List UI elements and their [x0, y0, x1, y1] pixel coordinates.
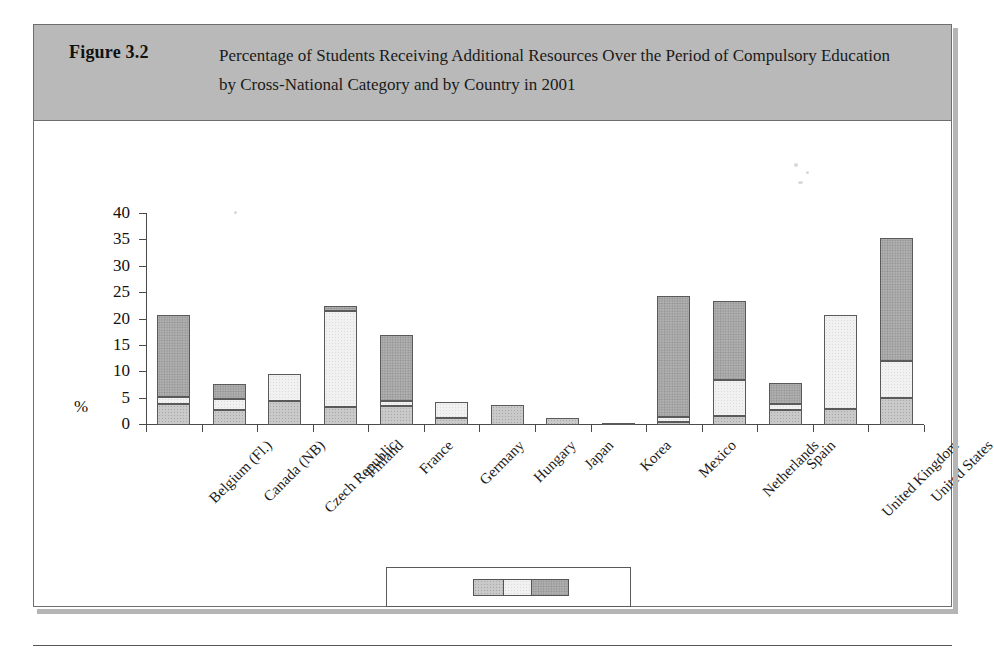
bar-segment-c: [657, 296, 690, 417]
y-tick-label: 35: [86, 230, 130, 247]
y-tick-label: 30: [86, 257, 130, 274]
y-tick: [139, 213, 146, 214]
bar-segment-c: [769, 383, 802, 405]
y-tick: [139, 239, 146, 240]
x-axis-label: Hungary: [531, 437, 580, 486]
bar-segment-b: [380, 401, 413, 406]
x-tick: [757, 425, 758, 432]
figure-page: Figure 3.2 Percentage of Students Receiv…: [0, 0, 994, 664]
bar-segment-a: [769, 410, 802, 425]
legend-item-a: A: [473, 576, 487, 598]
bar-segment-b: [769, 404, 802, 409]
bar-segment-c: [380, 335, 413, 401]
y-tick: [139, 319, 146, 320]
x-tick: [535, 425, 536, 432]
bar-segment-b: [824, 315, 857, 409]
y-tick-label: 20: [86, 310, 130, 327]
figure-title: Percentage of Students Receiving Additio…: [219, 41, 909, 99]
bar-segment-b: [324, 311, 357, 408]
y-tick: [139, 424, 146, 425]
y-tick-label: 25: [86, 283, 130, 300]
y-tick-label: 0: [86, 415, 130, 432]
x-axis-label: Korea: [637, 437, 675, 475]
figure-number: Figure 3.2: [69, 42, 149, 63]
x-axis-label: Mexico: [695, 437, 739, 481]
bar-segment-c: [324, 306, 357, 310]
y-tick: [139, 371, 146, 372]
x-axis-label: Japan: [581, 437, 617, 473]
bar-segment-a: [657, 422, 690, 425]
bar-segment-a: [491, 405, 524, 425]
bar-segment-b: [213, 399, 246, 411]
bar-segment-a: [268, 401, 301, 425]
bar-segment-c: [213, 384, 246, 398]
y-tick-label: 40: [86, 204, 130, 221]
bar-segment-a: [546, 418, 579, 425]
bar-segment-c: [157, 315, 190, 397]
bar-series-container: [146, 121, 924, 425]
x-axis-label: Germany: [476, 437, 527, 488]
x-tick: [479, 425, 480, 432]
bar-segment-b: [657, 417, 690, 422]
bar-segment-a: [713, 416, 746, 425]
bar-segment-a: [324, 407, 357, 425]
x-tick: [924, 425, 925, 432]
bar-segment-b: [713, 380, 746, 416]
bar-segment-a: [380, 406, 413, 425]
bar-segment-a: [880, 398, 913, 425]
y-tick-label: 15: [86, 336, 130, 353]
figure-shadow-bottom: [37, 609, 958, 614]
legend-swatch-c: [531, 579, 569, 596]
y-tick: [139, 398, 146, 399]
bar-segment-b: [157, 397, 190, 404]
figure-container: Figure 3.2 Percentage of Students Receiv…: [33, 24, 952, 607]
chart-plot-area: % 0510152025303540 Belgium (Fl.)Canada (…: [34, 121, 951, 606]
bar-segment-a: [602, 423, 635, 425]
bar-segment-a: [824, 409, 857, 425]
chart-legend: A B C: [386, 567, 631, 607]
legend-item-b: B: [503, 576, 516, 598]
y-tick: [139, 266, 146, 267]
x-tick: [313, 425, 314, 432]
y-tick-label: 10: [86, 362, 130, 379]
horizontal-rule: [33, 645, 952, 646]
y-tick: [139, 345, 146, 346]
bar-segment-a: [213, 410, 246, 425]
x-tick: [202, 425, 203, 432]
x-tick: [813, 425, 814, 432]
bar-segment-b: [268, 374, 301, 401]
bar-segment-c: [713, 301, 746, 380]
x-axis-label: France: [416, 437, 457, 478]
bar-segment-a: [435, 418, 468, 425]
bar-segment-a: [157, 404, 190, 425]
bar-segment-b: [880, 361, 913, 398]
figure-shadow-right: [953, 28, 958, 613]
x-tick: [146, 425, 147, 432]
bar-segment-b: [435, 402, 468, 417]
bar-segment-c: [880, 238, 913, 360]
figure-header-band: Figure 3.2 Percentage of Students Receiv…: [34, 25, 951, 121]
legend-item-c: C: [531, 576, 544, 598]
x-tick: [368, 425, 369, 432]
x-tick: [424, 425, 425, 432]
x-tick: [702, 425, 703, 432]
x-tick: [646, 425, 647, 432]
y-tick-label: 5: [86, 389, 130, 406]
x-tick: [591, 425, 592, 432]
y-tick: [139, 292, 146, 293]
x-tick: [868, 425, 869, 432]
x-tick: [257, 425, 258, 432]
